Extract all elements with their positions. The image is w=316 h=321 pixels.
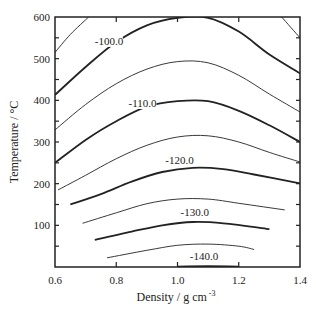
plot-frame	[55, 17, 300, 267]
contour-line	[55, 17, 89, 52]
y-tick-labels: 100200300400500600	[34, 11, 51, 231]
contour-line	[55, 16, 300, 94]
contour-label: -100.0	[95, 35, 124, 47]
x-tick-label: 1.4	[293, 274, 307, 286]
x-tick-label: 0.8	[109, 274, 123, 286]
y-tick-label: 400	[34, 94, 51, 106]
x-axis-title: Density / g cm -3	[137, 289, 216, 304]
contour-line	[107, 244, 254, 258]
contour-line	[282, 17, 300, 38]
x-tick-label: 1.2	[232, 274, 246, 286]
contour-labels: -100.0-110.0-120.0-130.0-140.0	[94, 35, 219, 262]
contour-line	[95, 222, 270, 240]
y-tick-label: 200	[34, 178, 51, 190]
contour-label: -130.0	[181, 206, 210, 218]
y-tick-label: 300	[34, 136, 51, 148]
y-tick-label: 600	[34, 11, 51, 23]
contour-line	[55, 61, 300, 130]
contour-label: -140.0	[190, 250, 219, 262]
x-tick-label: 1.0	[171, 274, 185, 286]
contour-label: -120.0	[165, 154, 194, 166]
contour-chart: -100.0-110.0-120.0-130.0-140.0 0.60.81.0…	[0, 0, 316, 321]
x-tick-label: 0.6	[48, 274, 62, 286]
contour-lines	[55, 16, 300, 266]
contour-label: -110.0	[129, 97, 158, 109]
y-tick-label: 500	[34, 53, 51, 65]
y-axis-title: Temperature / °C	[7, 101, 21, 184]
y-tick-label: 100	[34, 219, 51, 231]
chart-canvas: -100.0-110.0-120.0-130.0-140.0 0.60.81.0…	[0, 0, 316, 321]
axis-ticks	[55, 17, 300, 267]
x-tick-labels: 0.60.81.01.21.4	[48, 274, 307, 286]
